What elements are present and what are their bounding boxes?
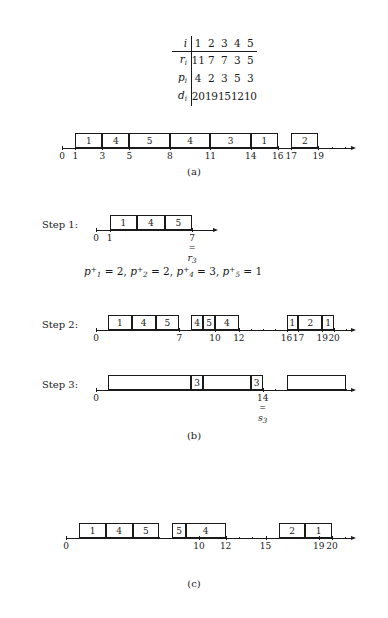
step-3-label: Step 3: bbox=[42, 379, 78, 390]
cell-p-4: 5 bbox=[231, 70, 244, 88]
formula-term-3: p+4 = 3 bbox=[176, 265, 216, 277]
axis-arrow-icon bbox=[351, 536, 356, 540]
cell-p-5: 3 bbox=[244, 70, 257, 88]
schedule-block-label: 4 bbox=[137, 217, 164, 229]
axis-tick-label: 3 bbox=[93, 151, 111, 161]
row-header-i: i bbox=[172, 36, 191, 51]
axis-tick-minor bbox=[332, 147, 333, 149]
formula-term-2: p+2 = 2 bbox=[130, 265, 170, 277]
axis-tick-label: 1 bbox=[101, 233, 119, 243]
axis-line bbox=[62, 148, 352, 149]
cell-r-5: 5 bbox=[244, 51, 257, 70]
axis-tick-label: 20 bbox=[323, 541, 341, 551]
schedule-block-label: 5 bbox=[203, 317, 215, 329]
axis-tick-label: 14 bbox=[242, 151, 260, 161]
step-1-label: Step 1: bbox=[42, 219, 78, 230]
scheduling-figure: i 1 2 3 4 5 ri 11 7 7 3 5 pi 4 bbox=[0, 0, 388, 618]
cell-p-1: 4 bbox=[191, 70, 205, 88]
schedule-block-label: 3 bbox=[251, 377, 263, 389]
schedule-block-label: 2 bbox=[298, 317, 322, 329]
axis-tick-major bbox=[192, 228, 193, 232]
axis-tick-major bbox=[96, 388, 97, 392]
row-header-p: pi bbox=[172, 70, 191, 88]
axis-tick-label: 17 bbox=[289, 333, 307, 343]
axis-tick-minor bbox=[346, 329, 347, 331]
axis-tick-label: 7 bbox=[170, 333, 188, 343]
timeline-step-3: 01433 bbox=[96, 390, 352, 391]
schedule-block-label: 1 bbox=[110, 217, 137, 229]
caption-b: (b) bbox=[174, 430, 214, 441]
axis-tick-label: 0 bbox=[87, 333, 105, 343]
schedule-block-label: 1 bbox=[322, 317, 334, 329]
row-header-r-subscript: i bbox=[185, 57, 187, 66]
formula-processing-remainders: p+1 = 2, p+2 = 2, p+4 = 3, p+5 = 1 bbox=[84, 265, 262, 279]
row-header-p-symbol: p bbox=[178, 71, 185, 83]
schedule-block-label: 5 bbox=[172, 525, 185, 537]
step-2-label: Step 2: bbox=[42, 319, 78, 330]
schedule-block-label: 5 bbox=[129, 135, 169, 147]
row-header-r: ri bbox=[172, 51, 191, 70]
axis-line bbox=[96, 390, 352, 391]
schedule-block-label: 5 bbox=[156, 317, 180, 329]
table-row-processing: pi 4 2 3 5 3 bbox=[172, 70, 257, 88]
axis-tick-major bbox=[266, 536, 267, 540]
formula-term-1-value: 2 bbox=[117, 265, 124, 277]
schedule-block bbox=[203, 375, 251, 390]
timeline-panel-c: 010121519201455421 bbox=[66, 538, 352, 539]
axis-line bbox=[66, 538, 352, 539]
schedule-block-label: 2 bbox=[279, 525, 306, 537]
parameter-table-body: i 1 2 3 4 5 ri 11 7 7 3 5 pi 4 bbox=[172, 36, 257, 106]
schedule-block-label: 4 bbox=[132, 317, 156, 329]
schedule-block-label: 1 bbox=[287, 317, 299, 329]
cell-r-2: 7 bbox=[205, 51, 218, 70]
formula-term-4-value: 1 bbox=[255, 265, 262, 277]
schedule-block-label: 4 bbox=[191, 317, 203, 329]
cell-i-4: 4 bbox=[231, 36, 244, 51]
axis-tick-minor bbox=[159, 537, 160, 539]
axis-tick-label: 14 bbox=[254, 393, 272, 403]
axis-tick-major bbox=[226, 536, 227, 540]
cell-d-5: 10 bbox=[244, 88, 257, 106]
marker-equals-s3: = bbox=[253, 404, 273, 412]
axis-tick-label: 5 bbox=[120, 151, 138, 161]
cell-d-3: 15 bbox=[218, 88, 231, 106]
cell-r-3: 7 bbox=[218, 51, 231, 70]
schedule-block bbox=[108, 375, 191, 390]
axis-tick-label: 17 bbox=[282, 151, 300, 161]
cell-i-5: 5 bbox=[244, 36, 257, 51]
axis-tick-label: 1 bbox=[66, 151, 84, 161]
axis-tick-label: 0 bbox=[87, 393, 105, 403]
table-row-release: ri 11 7 7 3 5 bbox=[172, 51, 257, 70]
axis-tick-major bbox=[318, 146, 319, 150]
marker-equals-r3: = bbox=[182, 244, 202, 252]
axis-tick-label: 0 bbox=[57, 541, 75, 551]
axis-tick-label: 8 bbox=[161, 151, 179, 161]
parameter-table: i 1 2 3 4 5 ri 11 7 7 3 5 pi 4 bbox=[172, 36, 257, 106]
caption-a: (a) bbox=[174, 166, 214, 177]
axis-tick-label: 12 bbox=[230, 333, 248, 343]
axis-tick-minor bbox=[263, 329, 264, 331]
cell-i-3: 3 bbox=[218, 36, 231, 51]
cell-i-2: 2 bbox=[205, 36, 218, 51]
axis-line bbox=[96, 230, 214, 231]
axis-tick-label: 19 bbox=[309, 151, 327, 161]
axis-tick-label: 11 bbox=[201, 151, 219, 161]
cell-p-2: 2 bbox=[205, 70, 218, 88]
schedule-block-label: 3 bbox=[191, 377, 203, 389]
axis-tick-minor bbox=[346, 389, 347, 391]
formula-term-1: p+1 = 2 bbox=[84, 265, 124, 277]
schedule-block bbox=[287, 375, 347, 390]
marker-label-r3: r3 bbox=[182, 252, 202, 265]
axis-tick-major bbox=[96, 328, 97, 332]
marker-label-s3: s3 bbox=[253, 412, 273, 425]
axis-tick-major bbox=[66, 536, 67, 540]
cell-r-4: 3 bbox=[231, 51, 244, 70]
schedule-block-label: 1 bbox=[108, 317, 132, 329]
axis-tick-minor bbox=[239, 537, 240, 539]
axis-tick-major bbox=[332, 536, 333, 540]
axis-tick-major bbox=[263, 388, 264, 392]
timeline-step-2: 07101216171920145454121 bbox=[96, 330, 352, 331]
caption-c: (c) bbox=[174, 578, 214, 589]
axis-tick-major bbox=[62, 146, 63, 150]
axis-arrow-icon bbox=[351, 388, 356, 392]
